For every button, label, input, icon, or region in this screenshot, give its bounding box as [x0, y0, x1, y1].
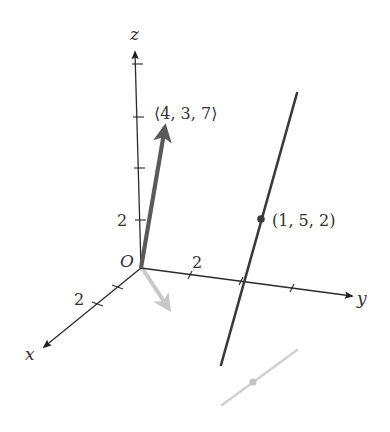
x-axis-label: x — [25, 344, 35, 364]
y-axis-label: y — [356, 288, 367, 308]
point-marker — [257, 215, 265, 223]
z-tick-label: 2 — [117, 211, 127, 230]
x-tick-label: 2 — [74, 290, 84, 309]
projected-line — [222, 350, 297, 405]
z-axis — [132, 52, 146, 268]
origin-label: O — [120, 251, 134, 271]
3d-vector-diagram: z y x O 2 2 2 ⟨4, 3, 7⟩ (1, 5, 2) — [0, 0, 390, 432]
y-tick-label: 2 — [192, 253, 202, 272]
vector-label: ⟨4, 3, 7⟩ — [154, 104, 217, 123]
position-vector — [141, 127, 165, 268]
x-tick — [112, 285, 123, 289]
projected-vector — [142, 268, 169, 309]
z-axis-label: z — [129, 24, 140, 44]
point-label: (1, 5, 2) — [272, 211, 335, 230]
x-axis — [44, 268, 141, 347]
projected-point — [249, 378, 256, 385]
